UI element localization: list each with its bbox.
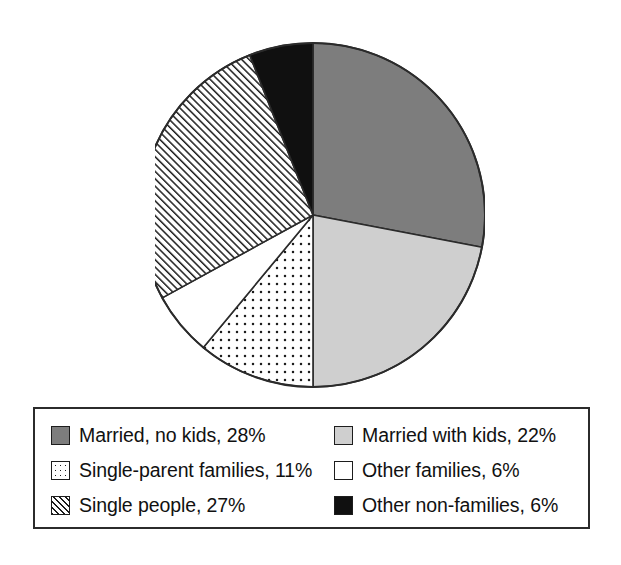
legend-item-single-parent-families[interactable]: Single-parent families, 11% (51, 453, 334, 488)
legend-item-single-people[interactable]: Single people, 27% (51, 488, 334, 523)
legend-item-other-non-families[interactable]: Other non-families, 6% (334, 488, 576, 523)
pie-slice-married-no-kids[interactable] (313, 43, 485, 247)
legend-item-other-families[interactable]: Other families, 6% (334, 453, 576, 488)
legend-grid: Married, no kids, 28% Married with kids,… (51, 418, 576, 523)
legend-box: Married, no kids, 28% Married with kids,… (33, 407, 590, 529)
legend-label-other-non-families: Other non-families, 6% (362, 494, 558, 517)
pie-chart-plot-area (155, 18, 485, 393)
legend-swatch-single-people (51, 496, 70, 515)
legend-swatch-single-parent-families (51, 461, 70, 480)
legend-swatch-married-no-kids (51, 426, 70, 445)
legend-label-married-with-kids: Married with kids, 22% (362, 424, 556, 447)
pie-chart-figure: Married, no kids, 28% Married with kids,… (0, 0, 621, 565)
legend-label-married-no-kids: Married, no kids, 28% (79, 424, 265, 447)
legend-label-single-people: Single people, 27% (79, 494, 245, 517)
legend-item-married-no-kids[interactable]: Married, no kids, 28% (51, 418, 334, 453)
legend-label-single-parent-families: Single-parent families, 11% (79, 459, 312, 482)
pie-chart-svg (155, 18, 485, 393)
legend-item-married-with-kids[interactable]: Married with kids, 22% (334, 418, 576, 453)
legend-label-other-families: Other families, 6% (362, 459, 520, 482)
legend-swatch-married-with-kids (334, 426, 353, 445)
legend-swatch-other-families (334, 461, 353, 480)
legend-swatch-other-non-families (334, 496, 353, 515)
